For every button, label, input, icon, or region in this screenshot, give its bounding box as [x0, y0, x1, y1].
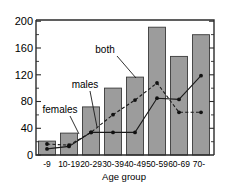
- ytick-label-40: 40: [21, 122, 33, 134]
- males-point-age-50-59: [155, 81, 159, 85]
- annotation-females-label: females: [42, 104, 77, 115]
- males-point-age--9: [45, 142, 49, 146]
- ytick-label-120: 120: [15, 69, 33, 81]
- xtick-label-age-20-29: 20-29: [80, 159, 102, 169]
- males-point-age-60-69: [177, 110, 181, 114]
- males-point-age-30-39: [111, 113, 115, 117]
- chart-figure: 200 160 120 80 40 0 -9 10-19 20-29 30-39…: [0, 0, 249, 191]
- females-point-age-70-: [199, 74, 203, 78]
- bar-age-40-49: [127, 77, 144, 155]
- females-point-age-50-59: [155, 96, 159, 100]
- xtick-label-age-50-59: 50-59: [146, 159, 168, 169]
- bar-age-50-59: [149, 27, 166, 155]
- ytick-label-80: 80: [21, 95, 33, 107]
- males-point-age-70-: [199, 110, 203, 114]
- xtick-label-age-60-69: 60-69: [168, 159, 190, 169]
- females-point-age-20-29: [89, 131, 93, 135]
- xtick-label-age-30-39: 30-39: [102, 159, 124, 169]
- xtick-label-age--9: -9: [43, 159, 51, 169]
- females-point-age-10-19: [67, 145, 71, 149]
- females-point-age-30-39: [111, 131, 115, 135]
- bar-series-both: [39, 27, 210, 155]
- females-point-age-40-49: [133, 131, 137, 135]
- bar-age-60-69: [171, 56, 188, 155]
- annotation-both-leader: [117, 56, 136, 78]
- annotation-females: females: [42, 104, 79, 134]
- xtick-label-age-40-49: 40-49: [124, 159, 146, 169]
- bar-age-30-39: [105, 88, 122, 155]
- xtick-label-age-10-19: 10-19: [58, 159, 80, 169]
- females-point-age--9: [45, 147, 49, 151]
- annotation-females-leader: [70, 116, 79, 134]
- x-axis-tick-labels: -9 10-19 20-29 30-39 40-49 50-59 60-69 7…: [43, 159, 205, 169]
- females-point-age-60-69: [177, 98, 181, 102]
- x-axis-title: Age group: [102, 171, 146, 182]
- y-axis-tick-labels: 200 160 120 80 40 0: [15, 15, 33, 161]
- annotation-males-label: males: [72, 79, 99, 90]
- annotation-both-label: both: [95, 44, 114, 55]
- ytick-label-160: 160: [15, 42, 33, 54]
- ytick-label-200: 200: [15, 15, 33, 27]
- bar-chart-canvas: 200 160 120 80 40 0 -9 10-19 20-29 30-39…: [0, 0, 249, 191]
- annotation-both: both: [95, 44, 136, 78]
- males-point-age-40-49: [133, 98, 137, 102]
- bar-age-70-: [193, 35, 210, 155]
- xtick-label-age-70-: 70-: [193, 159, 205, 169]
- ytick-label-0: 0: [27, 149, 33, 161]
